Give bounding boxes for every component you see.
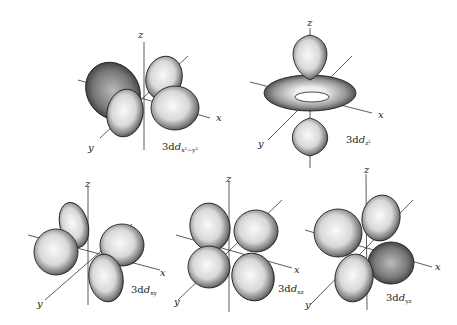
panel-dxy: z x y 3ddxy [28, 178, 166, 309]
panel-dyz: z x y 3ddyz [304, 164, 441, 310]
orbital-label-dx2y2: 3ddx²−y² [162, 141, 198, 154]
axis-label-y: y [36, 298, 43, 309]
orbital-label-dxz: 3ddxz [278, 283, 304, 295]
axis-label-y: y [304, 299, 311, 310]
axis-label-z: z [306, 17, 313, 28]
axis-label-y: y [257, 138, 264, 149]
axis-label-z: z [137, 29, 144, 40]
panel-dz2: z x y 3ddz² [250, 17, 384, 168]
orbital-label-dz2: 3ddz² [346, 134, 371, 146]
axis-label-y: y [87, 142, 94, 153]
axis-label-x: x [160, 267, 166, 278]
orbital-diagram: z x y 3ddx²−y² z x y 3ddz² z x y 3ddxy [0, 0, 457, 325]
panel-dxz: z x y 3ddxz [173, 173, 304, 312]
axis-label-x: x [378, 109, 384, 120]
axis-label-x: x [294, 264, 300, 275]
axis-label-z: z [225, 173, 232, 184]
axis-label-y: y [173, 296, 180, 307]
axis-label-z: z [84, 178, 91, 189]
axis-label-x: x [435, 261, 441, 272]
orbital-label-dxy: 3ddxy [131, 284, 158, 297]
panel-dx2y2: z x y 3ddx²−y² [74, 29, 222, 154]
axis-label-x: x [216, 112, 222, 123]
axis-label-z: z [363, 164, 370, 175]
orbital-label-dyz: 3ddyz [386, 292, 412, 305]
